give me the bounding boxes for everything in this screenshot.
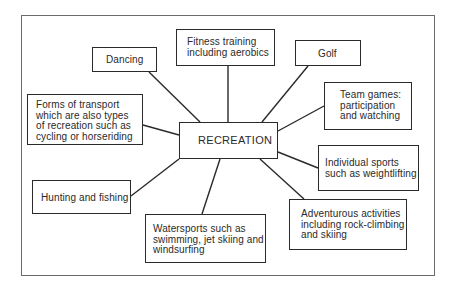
edge-team-games xyxy=(278,106,324,131)
node-label: Forms of transport which are also types … xyxy=(36,100,133,142)
edge-hunting xyxy=(131,159,179,196)
edge-adventurous xyxy=(260,159,304,199)
node-fitness: Fitness training including aerobics xyxy=(176,29,275,66)
node-team-games: Team games: participation and watching xyxy=(324,82,412,130)
node-adventurous: Adventurous activities including rock-cl… xyxy=(289,199,407,250)
node-hunting: Hunting and fishing xyxy=(32,180,131,214)
edge-dancing xyxy=(149,72,200,122)
node-dancing: Dancing xyxy=(92,47,157,72)
edge-golf xyxy=(262,66,308,122)
node-label: Hunting and fishing xyxy=(41,192,129,203)
edge-transport xyxy=(143,125,179,135)
node-golf: Golf xyxy=(295,40,361,66)
node-label: Adventurous activities including rock-cl… xyxy=(301,209,404,241)
node-label: Watersports such as swimming, jet skiing… xyxy=(153,224,264,256)
node-individual-sports: Individual sports such as weightlifting xyxy=(318,145,419,191)
edge-individual-sports xyxy=(278,152,318,168)
edge-watersports xyxy=(202,159,220,214)
node-label: Team games: participation and watching xyxy=(340,90,401,122)
node-label: Golf xyxy=(318,48,337,59)
center-node-recreation: RECREATION xyxy=(179,122,278,159)
node-watersports: Watersports such as swimming, jet skiing… xyxy=(145,214,266,263)
node-transport: Forms of transport which are also types … xyxy=(27,94,143,145)
node-label: Fitness training including aerobics xyxy=(187,36,269,58)
node-label: Individual sports such as weightlifting xyxy=(325,157,417,179)
node-label: Dancing xyxy=(106,54,143,65)
node-label: RECREATION xyxy=(198,135,272,146)
